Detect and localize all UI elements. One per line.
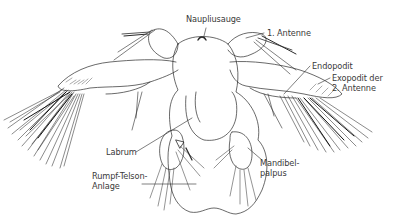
nauplius-diagram: Naupliusauge 1. Antenne Endopodit Exopod… <box>0 0 401 222</box>
label-endopodit: Endopodit <box>312 61 353 71</box>
label-mandibel-line2: palpus <box>260 168 299 178</box>
label-labrum: Labrum <box>106 147 137 157</box>
label-rumpf-line1: Rumpf-Telson- <box>92 171 147 181</box>
label-exopodit-line1: Exopodit der <box>332 73 383 83</box>
label-rumpf-line2: Anlage <box>92 181 147 191</box>
label-exopodit-line2: 2. Antenne <box>332 83 383 93</box>
label-mandibel-line1: Mandibel- <box>260 158 299 168</box>
label-antenne-1: 1. Antenne <box>267 28 311 38</box>
label-naupliusauge: Naupliusauge <box>186 14 241 24</box>
label-mandibelpalpus: Mandibel- palpus <box>260 158 299 178</box>
label-rumpf-telson-anlage: Rumpf-Telson- Anlage <box>92 171 147 191</box>
label-exopodit: Exopodit der 2. Antenne <box>332 73 383 93</box>
nauplius-illustration <box>0 0 401 222</box>
